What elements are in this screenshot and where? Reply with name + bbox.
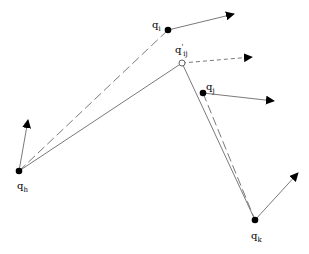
edge-qj-qk: [203, 93, 255, 220]
velocity-arrows-layer: [19, 14, 298, 220]
edges-layer: [19, 30, 255, 220]
velocity-arrow-qi: [168, 14, 234, 30]
edge-qij-qk: [182, 63, 255, 220]
velocity-arrow-qh: [19, 120, 28, 171]
trajectory-diagram: [0, 0, 309, 254]
label-qk: qk: [251, 231, 262, 244]
label-qh: qh: [17, 181, 28, 194]
velocity-arrow-qk: [255, 173, 298, 220]
nodes-layer: [16, 27, 259, 224]
label-qj: qj: [206, 82, 215, 95]
velocity-arrow-qij: [182, 57, 252, 63]
edge-qh-qi: [19, 30, 168, 171]
node-qh: [16, 168, 23, 175]
label-qij: q'ij: [175, 44, 188, 58]
label-qi: qi: [152, 20, 161, 33]
edge-qh-qij: [19, 63, 182, 171]
node-qk: [252, 217, 259, 224]
node-qij: [179, 60, 185, 66]
node-qi: [165, 27, 172, 34]
